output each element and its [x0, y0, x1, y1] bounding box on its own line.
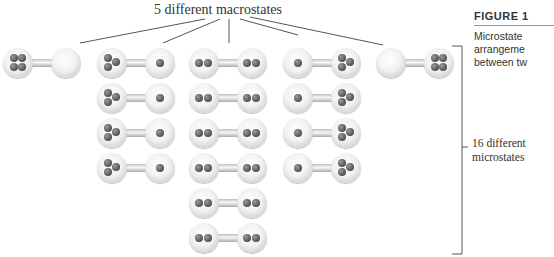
particle: [195, 129, 203, 137]
particle: [204, 234, 212, 242]
particle: [112, 163, 120, 171]
particle: [243, 129, 251, 137]
right-bulb: [424, 48, 454, 78]
left-bulb: [3, 48, 33, 78]
microstate-dumbbell: [3, 48, 83, 80]
particle: [294, 164, 302, 172]
left-bulb: [97, 153, 127, 183]
microstate-dumbbell: [283, 48, 363, 80]
particle: [204, 199, 212, 207]
microstate-dumbbell: [283, 118, 363, 150]
right-bulb: [51, 48, 81, 78]
right-bulb: [145, 48, 175, 78]
caption-line-3: between tw: [474, 56, 554, 69]
particle: [346, 128, 354, 136]
particle: [195, 59, 203, 67]
particle: [294, 59, 302, 67]
particle: [204, 94, 212, 102]
particle: [338, 133, 346, 141]
particle: [204, 164, 212, 172]
particle: [195, 199, 203, 207]
particle: [204, 59, 212, 67]
microstate-dumbbell: [283, 83, 363, 115]
particle: [195, 164, 203, 172]
particle: [346, 93, 354, 101]
particle: [104, 124, 112, 132]
particle: [252, 199, 260, 207]
left-bulb: [376, 48, 406, 78]
particle: [104, 168, 112, 176]
caption-line-2: arrangeme: [474, 43, 554, 56]
left-bulb: [283, 118, 313, 148]
particle: [156, 129, 164, 137]
particle: [252, 94, 260, 102]
particle: [112, 93, 120, 101]
particle: [243, 199, 251, 207]
particle: [104, 159, 112, 167]
particle: [294, 129, 302, 137]
microstate-dumbbell: [283, 153, 363, 185]
particle: [338, 63, 346, 71]
particle: [243, 164, 251, 172]
right-bulb: [331, 153, 361, 183]
microstates-label-line2: microstates: [472, 150, 526, 164]
microstates-label: 16 different microstates: [472, 136, 526, 164]
right-bulb: [145, 118, 175, 148]
left-bulb: [189, 153, 219, 183]
particle: [10, 54, 18, 62]
caption-line-1: Microstate: [474, 30, 554, 43]
particle: [18, 63, 26, 71]
left-bulb: [97, 48, 127, 78]
microstate-dumbbell: [97, 153, 177, 185]
caption-text: Microstate arrangeme between tw: [474, 30, 554, 69]
particle: [112, 58, 120, 66]
microstate-dumbbell: [189, 48, 269, 80]
connector-macrostate-2: [163, 19, 220, 43]
particle: [104, 133, 112, 141]
particle: [195, 94, 203, 102]
left-bulb: [283, 83, 313, 113]
right-bulb: [237, 188, 267, 218]
particle: [338, 89, 346, 97]
particle: [104, 98, 112, 106]
right-bulb: [237, 118, 267, 148]
particle: [431, 63, 439, 71]
left-bulb: [189, 48, 219, 78]
particle: [243, 59, 251, 67]
microstate-dumbbell: [189, 83, 269, 115]
microstates-label-line1: 16 different: [472, 136, 526, 150]
particle: [431, 54, 439, 62]
particle: [439, 63, 447, 71]
right-bulb: [237, 153, 267, 183]
left-bulb: [189, 83, 219, 113]
particle: [156, 94, 164, 102]
particle: [252, 129, 260, 137]
figure-caption: FIGURE 1 Microstate arrangeme between tw: [474, 10, 554, 69]
particle: [338, 98, 346, 106]
left-bulb: [189, 223, 219, 253]
particle: [10, 63, 18, 71]
particle: [338, 159, 346, 167]
particle: [156, 164, 164, 172]
particle: [243, 234, 251, 242]
particle: [338, 124, 346, 132]
particle: [338, 54, 346, 62]
microstate-dumbbell: [189, 118, 269, 150]
right-bulb: [331, 83, 361, 113]
left-bulb: [189, 188, 219, 218]
right-bulb: [145, 153, 175, 183]
right-bulb: [145, 83, 175, 113]
particle: [338, 168, 346, 176]
right-bulb: [331, 48, 361, 78]
right-bulb: [237, 83, 267, 113]
left-bulb: [283, 153, 313, 183]
particle: [252, 59, 260, 67]
particle: [112, 128, 120, 136]
particle: [243, 94, 251, 102]
particle: [346, 163, 354, 171]
connector-macrostate-1: [80, 19, 205, 43]
particle: [18, 54, 26, 62]
particle: [104, 54, 112, 62]
microstate-dumbbell: [97, 48, 177, 80]
particle: [252, 234, 260, 242]
